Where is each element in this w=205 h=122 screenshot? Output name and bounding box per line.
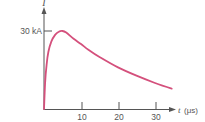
- current-pulse-chart: I t (μs) 30 kA 10 20 30: [0, 0, 205, 122]
- x-axis-arrow-icon: [169, 107, 176, 112]
- y-tick-label-30: 30 kA: [20, 26, 42, 36]
- x-axis-unit-label: (μs): [184, 106, 198, 115]
- x-tick-label-20: 20: [114, 112, 124, 122]
- y-axis-arrow-icon: [42, 7, 47, 14]
- x-tick-label-30: 30: [151, 112, 161, 122]
- x-tick-label-10: 10: [77, 112, 87, 122]
- x-axis-var-label: t: [178, 105, 181, 115]
- y-axis-label: I: [41, 0, 46, 8]
- current-curve: [44, 31, 172, 109]
